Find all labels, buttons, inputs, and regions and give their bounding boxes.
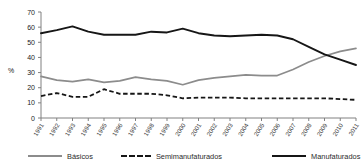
x-tick-label: 1999 [158,121,172,137]
x-tick-label: 2008 [299,121,313,137]
line-chart-plot: 010203040506070 199119921993199419951996… [0,0,364,167]
x-tick-label: 1993 [63,121,77,137]
legend-label-semimanufaturados: Semimanufaturados [156,152,222,161]
x-tick-label: 2011 [347,121,360,136]
series-line-basicos [41,48,356,84]
chart-legend: Básicos Semimanufaturados Manufaturados [0,148,364,164]
x-tick-label: 1996 [110,121,124,137]
legend-swatch-semimanufaturados [121,155,151,157]
legend-item-basicos: Básicos [28,152,93,161]
legend-label-manufaturados: Manufaturados [311,152,360,161]
y-tick-label: 50 [27,39,35,46]
x-tick-label: 2006 [268,121,282,137]
legend-item-manufaturados: Manufaturados [272,152,360,161]
x-tick-label: 2002 [205,121,219,137]
x-tick-label: 2001 [189,121,203,137]
x-axis: 1991199219931994199519961997199819992000… [32,118,361,137]
y-tick-label: 20 [27,84,35,91]
x-tick-label: 1997 [126,121,140,137]
x-tick-label: 2010 [331,121,345,137]
chart-container: 010203040506070 199119921993199419951996… [0,0,364,167]
y-tick-label: 60 [27,24,35,31]
x-tick-label: 2005 [252,121,266,137]
series-line-manufaturados [41,26,356,65]
y-tick-label: 40 [27,54,35,61]
legend-swatch-manufaturados [272,155,306,157]
x-tick-label: 2000 [173,121,187,137]
x-tick-label: 2004 [236,121,250,137]
y-axis: 010203040506070 [27,9,41,122]
x-ticks: 1991199219931994199519961997199819992000… [32,118,361,137]
y-tick-label: 10 [27,99,35,106]
y-ticks: 010203040506070 [27,9,41,122]
x-tick-label: 1998 [142,121,156,137]
x-tick-label: 2009 [315,121,329,137]
x-tick-label: 1995 [95,121,109,137]
legend-label-basicos: Básicos [67,152,93,161]
x-tick-label: 1992 [47,121,61,137]
x-tick-label: 1991 [32,121,46,137]
x-tick-label: 2007 [284,121,298,137]
y-tick-label: 0 [31,115,35,122]
series-line-semimanufaturados [41,89,356,100]
x-tick-label: 1994 [79,121,93,137]
y-axis-title: % [8,67,14,74]
legend-swatch-basicos [28,155,62,157]
x-tick-label: 2003 [221,121,235,137]
y-tick-label: 70 [27,9,35,16]
legend-item-semimanufaturados: Semimanufaturados [121,152,222,161]
y-tick-label: 30 [27,69,35,76]
series-group [41,26,356,99]
